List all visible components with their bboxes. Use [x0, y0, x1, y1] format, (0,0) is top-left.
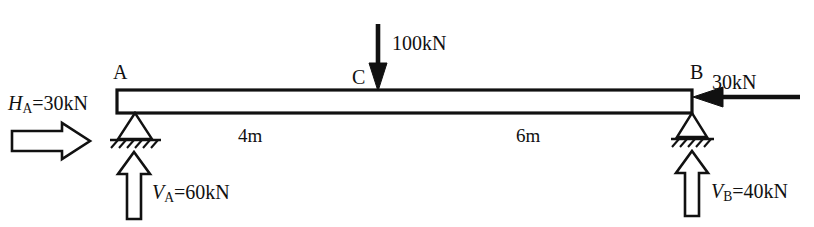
beam-rectangle [117, 90, 692, 113]
point-load-arrowhead [369, 63, 387, 91]
support-a-triangle [118, 113, 152, 139]
reaction-ha-arrow [12, 123, 90, 159]
reaction-va-symbol: V [152, 181, 164, 203]
support-b-triangle [677, 113, 707, 137]
point-load-label: 100kN [392, 33, 446, 53]
reaction-ha-subscript: A [22, 101, 32, 116]
dimension-label-ac: 4m [238, 126, 262, 145]
reaction-vb-label: VB=40kN [711, 181, 788, 201]
support-a-pin [110, 113, 161, 148]
reaction-vb-symbol: V [711, 180, 723, 202]
reaction-vb-arrow [676, 151, 708, 216]
reaction-va-block-arrow [118, 152, 150, 219]
reaction-ha-block-arrow [12, 123, 90, 159]
beam-body [117, 90, 692, 113]
reaction-ha-label: HA=30kN [8, 93, 88, 113]
reaction-ha-symbol: H [8, 92, 22, 114]
reaction-ha-value: =30kN [32, 92, 88, 114]
reaction-va-value: =60kN [174, 181, 230, 203]
reaction-vb-block-arrow [676, 151, 708, 216]
dimension-label-cb: 6m [516, 126, 540, 145]
support-b-pin [671, 113, 714, 147]
node-label-b: B [690, 62, 703, 82]
point-load-arrow-c [369, 24, 387, 91]
reaction-va-label: VA=60kN [152, 182, 230, 202]
node-label-c: C [352, 67, 365, 87]
reaction-va-arrow [118, 152, 150, 219]
beam-diagram-figure: A C B 4m 6m 100kN 30kN HA=30kN VA=60kN V… [0, 0, 814, 227]
reaction-vb-subscript: B [723, 189, 732, 204]
horizontal-load-label: 30kN [712, 72, 756, 92]
reaction-va-subscript: A [164, 190, 174, 205]
reaction-vb-value: =40kN [732, 180, 788, 202]
node-label-a: A [113, 62, 127, 82]
